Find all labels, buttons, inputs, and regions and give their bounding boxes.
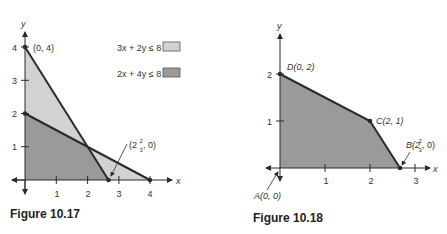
annotation-C: C(2, 1)	[376, 116, 404, 126]
annotation-A: A(0, 0)	[253, 172, 281, 201]
legend-swatch-dark	[163, 68, 180, 77]
x-tick-1: 1	[323, 176, 328, 186]
x-tick-1: 1	[54, 189, 59, 199]
point-4-0	[148, 178, 153, 183]
x-axis-label: x	[175, 176, 181, 186]
annotation-0-4: (0, 4)	[33, 43, 54, 53]
x-tick-3: 3	[116, 189, 121, 199]
x-tick-2: 2	[85, 189, 90, 199]
y-axis-label: y	[20, 19, 26, 29]
point-0-2	[23, 111, 28, 116]
point-0-4	[23, 45, 28, 50]
svg-text:A(0, 0): A(0, 0)	[253, 191, 281, 201]
svg-text:(2: (2	[129, 140, 137, 150]
x-tick-2: 2	[368, 176, 373, 186]
annotation-D: D(0, 2)	[287, 62, 315, 72]
y-tick-2: 2	[12, 109, 17, 119]
y-tick-1: 1	[12, 142, 17, 152]
y-tick-3: 3	[12, 76, 17, 86]
x-axis-label: x	[432, 164, 438, 174]
figure-10-18: 1 2 3 1 2 y x D(0, 2) C(2, 1) B(2 2 3 , …	[253, 21, 438, 201]
svg-text:, 0): , 0)	[422, 140, 435, 150]
caption-figure-10-18: Figure 10.18	[253, 211, 323, 225]
svg-text:, 0): , 0)	[143, 140, 156, 150]
legend-label-2: 2x + 4y ≤ 8	[117, 69, 161, 79]
x-tick-3: 3	[413, 176, 418, 186]
legend: 3x + 2y ≤ 8 2x + 4y ≤ 8	[117, 42, 180, 79]
point-2-2-3-0	[106, 178, 111, 183]
point-C	[368, 119, 373, 124]
point-D	[278, 72, 283, 77]
point-B	[398, 166, 403, 171]
x-tick-4: 4	[147, 189, 152, 199]
caption-figure-10-17: Figure 10.17	[10, 207, 80, 221]
y-tick-4: 4	[12, 43, 17, 53]
legend-swatch-light	[163, 42, 180, 51]
figure-10-17: 1 2 3 4 1 2 3 4 y x (0, 4) (2 2 3 , 0) 3…	[12, 19, 181, 199]
y-axis-label: y	[276, 21, 282, 31]
legend-label-1: 3x + 2y ≤ 8	[117, 43, 161, 53]
annotation-B: B(2 2 3 , 0)	[402, 138, 435, 165]
figures-canvas: 1 2 3 4 1 2 3 4 y x (0, 4) (2 2 3 , 0) 3…	[0, 0, 447, 234]
y-tick-1: 1	[267, 117, 272, 127]
y-tick-2: 2	[267, 70, 272, 80]
